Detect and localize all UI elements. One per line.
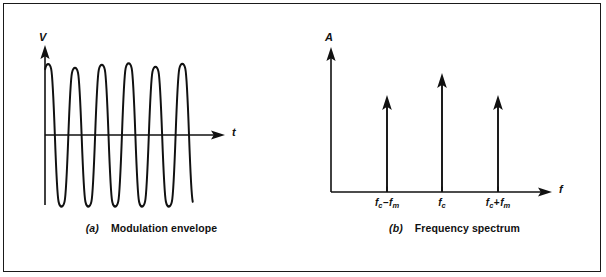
spectral-line-lower-sideband — [382, 95, 392, 192]
caption-panel-b: (b) Frequency spectrum — [303, 222, 606, 234]
tick-label-lower-sideband: fc–fm — [375, 197, 399, 208]
caption-b-text: Frequency spectrum — [415, 222, 520, 234]
caption-a-text: Modulation envelope — [111, 222, 217, 234]
caption-panel-a: (a) Modulation envelope — [0, 222, 303, 234]
tick-upper-sub2: m — [504, 201, 511, 210]
tick-upper-sub: c — [489, 201, 493, 210]
tick-label-upper-sideband: fc+fm — [486, 197, 510, 208]
figure-container: V t (a) Modulation envelope — [0, 0, 606, 277]
caption-a-index: (a) — [86, 222, 99, 234]
panel-modulation-envelope: V t (a) Modulation envelope — [0, 0, 303, 277]
tick-center-sub: c — [442, 201, 446, 210]
tick-lower-sub2: m — [392, 201, 399, 210]
tick-label-carrier: fc — [438, 197, 446, 208]
frequency-spectrum-plot — [303, 0, 606, 277]
caption-b-index: (b) — [389, 222, 403, 234]
spectral-line-carrier — [437, 73, 447, 192]
a-axis — [326, 47, 335, 192]
f-axis-label: f — [559, 183, 563, 195]
spectral-line-upper-sideband — [493, 95, 503, 192]
panel-frequency-spectrum: A f fc–fm fc fc+fm (b) Frequency spectru… — [303, 0, 606, 277]
t-axis-label: t — [232, 126, 236, 138]
v-axis-label: V — [39, 31, 46, 43]
a-axis-label: A — [325, 31, 333, 43]
tick-lower-sub: c — [378, 201, 382, 210]
